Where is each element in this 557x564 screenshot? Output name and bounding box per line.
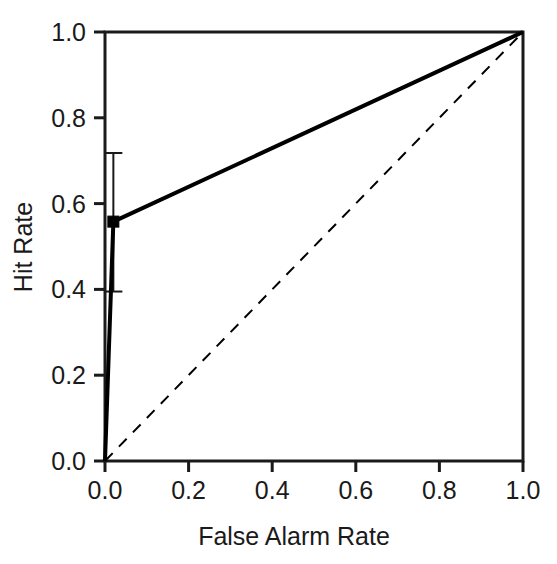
x-axis-tick-labels: 0.00.20.40.60.81.0 <box>88 476 541 504</box>
x-axis-tick-label: 0.8 <box>422 476 457 504</box>
data-point-markers <box>108 216 119 227</box>
roc-plot-svg: 0.00.20.40.60.81.0 0.00.20.40.60.81.0 Fa… <box>0 0 557 564</box>
roc-data-point-marker <box>108 216 119 227</box>
y-axis-tick-label: 0.6 <box>51 190 86 218</box>
y-axis-tick-label: 1.0 <box>51 18 86 46</box>
x-axis-tick-label: 0.4 <box>255 476 290 504</box>
x-axis-ticks <box>105 461 523 472</box>
y-axis-tick-label: 0.4 <box>51 275 86 303</box>
y-axis-tick-label: 0.2 <box>51 361 86 389</box>
chance-diagonal-line <box>105 32 523 461</box>
x-axis-tick-label: 1.0 <box>506 476 541 504</box>
y-axis-title: Hit Rate <box>9 202 37 292</box>
y-axis-tick-label: 0.0 <box>51 447 86 475</box>
x-axis-title: False Alarm Rate <box>198 522 390 550</box>
y-axis-ticks <box>94 32 105 461</box>
x-axis-tick-label: 0.6 <box>338 476 373 504</box>
chance-diagonal-path <box>105 32 523 461</box>
x-axis-tick-label: 0.2 <box>171 476 206 504</box>
y-axis-tick-label: 0.8 <box>51 104 86 132</box>
roc-chart-figure: 0.00.20.40.60.81.0 0.00.20.40.60.81.0 Fa… <box>0 0 557 564</box>
y-axis-tick-labels: 0.00.20.40.60.81.0 <box>51 18 86 475</box>
x-axis-tick-label: 0.0 <box>88 476 123 504</box>
